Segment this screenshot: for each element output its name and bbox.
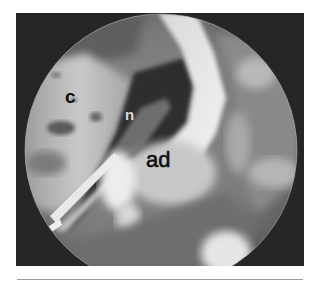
label-n: n xyxy=(125,107,134,122)
horizontal-rule xyxy=(17,279,303,280)
endoscopic-image: c n ad xyxy=(16,13,304,266)
endoscopic-view xyxy=(16,13,304,266)
label-c: c xyxy=(65,87,76,106)
label-ad: ad xyxy=(146,149,170,171)
